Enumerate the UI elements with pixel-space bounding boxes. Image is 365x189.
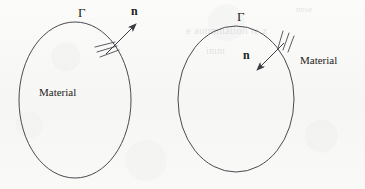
right-hatch-marks xyxy=(278,31,294,52)
left-panel-group xyxy=(19,22,136,178)
left-boundary-label-gamma: Γ xyxy=(78,5,86,21)
right-material-label: Material xyxy=(300,54,337,66)
right-normal-vector-label: n xyxy=(243,48,250,63)
right-material-boundary-ellipse xyxy=(178,26,294,172)
figure-root: nese e aunmuation te z imm xyxy=(0,0,365,189)
right-inward-normal-arrow xyxy=(257,43,284,70)
right-panel-group xyxy=(178,26,294,172)
left-material-label: Material xyxy=(39,86,76,98)
right-boundary-label-gamma: Γ xyxy=(237,9,245,25)
left-normal-vector-label: n xyxy=(131,4,138,19)
